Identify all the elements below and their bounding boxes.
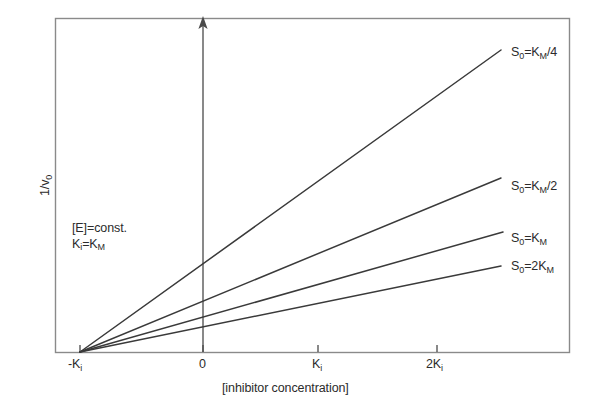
annotation-line-1: [E]=const.: [72, 221, 127, 237]
tick-sub: i: [80, 363, 82, 373]
tick-sub: i: [320, 363, 322, 373]
label-s: S: [511, 179, 519, 193]
label-s-sub: 0: [519, 237, 524, 247]
annotation-ki-text: K: [72, 237, 80, 251]
x-tick-label-zero: 0: [199, 357, 206, 373]
x-axis-title: [inhibitor concentration]: [222, 381, 349, 397]
x-tick-label-ki: Ki: [312, 357, 322, 373]
tick-text: -K: [68, 357, 80, 371]
series-line-s0-2km: [80, 266, 501, 352]
tick-text: K: [312, 357, 320, 371]
x-axis-ticks: [80, 345, 437, 352]
y-axis-title-sub: 0: [44, 175, 54, 180]
label-k-sub: M: [546, 265, 553, 275]
label-k-sub: M: [540, 237, 547, 247]
label-eq: =2K: [524, 259, 546, 273]
label-eq: =K: [524, 231, 539, 245]
series-label-s0-km-over-2: S0=KM/2: [511, 179, 557, 195]
series-label-s0-km: S0=KM: [511, 231, 547, 247]
conditions-annotation: [E]=const. Ki=KM: [72, 221, 127, 252]
label-s-sub: 0: [519, 265, 524, 275]
annotation-line-2: Ki=KM: [72, 237, 127, 253]
y-axis-title: 1/v0: [38, 175, 54, 196]
x-axis-title-text: [inhibitor concentration]: [222, 381, 349, 395]
label-tail: /2: [547, 179, 557, 193]
tick-sub: i: [441, 363, 443, 373]
label-eq: =K: [524, 45, 539, 59]
series-label-s0-2km: S0=2KM: [511, 259, 554, 275]
label-s: S: [511, 45, 519, 59]
label-tail: /4: [547, 45, 557, 59]
series-line-s0-km-over-2: [80, 178, 501, 352]
series-line-s0-km-over-4: [80, 50, 501, 352]
series-label-s0-km-over-4: S0=KM/4: [511, 45, 557, 61]
y-axis-title-text: 1/v: [38, 180, 52, 196]
label-s-sub: 0: [519, 185, 524, 195]
label-s: S: [511, 231, 519, 245]
annotation-ki-sub: i: [80, 242, 82, 252]
label-s: S: [511, 259, 519, 273]
label-eq: =K: [524, 179, 539, 193]
annotation-km-text: =K: [82, 237, 97, 251]
series-line-s0-km: [80, 232, 503, 352]
tick-text: 0: [199, 357, 206, 371]
label-k-sub: M: [540, 185, 547, 195]
label-k-sub: M: [540, 51, 547, 61]
plot-canvas: [0, 0, 602, 413]
x-tick-label-2ki: 2Ki: [426, 357, 443, 373]
annotation-km-sub: M: [98, 242, 105, 252]
dixon-plot-figure: 1/v0 [inhibitor concentration] -Ki 0 Ki …: [0, 0, 602, 413]
label-s-sub: 0: [519, 51, 524, 61]
tick-text: 2K: [426, 357, 441, 371]
x-tick-label-minus-ki: -Ki: [68, 357, 82, 373]
